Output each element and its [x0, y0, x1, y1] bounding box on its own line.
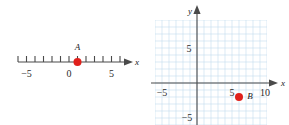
- number-line-x-axis-label: x: [134, 57, 139, 67]
- figure-container: −5 0 5 x A: [0, 0, 289, 125]
- point-a-marker[interactable]: [74, 58, 82, 66]
- x-tick-label-5: 5: [230, 87, 235, 98]
- number-line-tick-label-neg5: −5: [21, 68, 32, 79]
- coordinate-plane-svg: x y −5 5 10 5 −5 B: [145, 0, 289, 125]
- grid-lines: [155, 20, 267, 125]
- number-line-tick-label-0: 0: [67, 68, 72, 79]
- number-line-svg: −5 0 5 x A: [0, 0, 145, 125]
- coordinate-plane-figure: x y −5 5 10 5 −5 B: [145, 0, 289, 125]
- x-tick-label-neg5: −5: [157, 87, 168, 98]
- y-axis: [193, 5, 200, 125]
- number-line-tick-label-5: 5: [109, 68, 114, 79]
- y-tick-label-neg5: −5: [182, 112, 193, 123]
- y-axis-label: y: [187, 6, 192, 16]
- point-b-marker[interactable]: [235, 93, 243, 101]
- point-b-label: B: [247, 91, 253, 101]
- number-line-ticks: [18, 56, 120, 62]
- y-tick-label-5: 5: [187, 43, 192, 54]
- point-a-label: A: [74, 42, 81, 52]
- x-axis: [151, 79, 278, 86]
- x-tick-label-10: 10: [260, 87, 270, 98]
- number-line-figure: −5 0 5 x A: [0, 0, 145, 125]
- x-axis-label: x: [280, 78, 285, 88]
